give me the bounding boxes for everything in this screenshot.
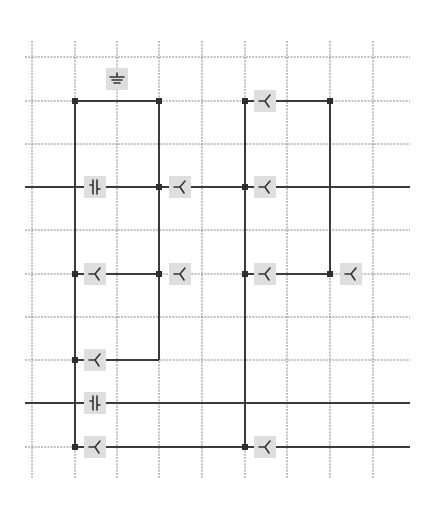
switch-symbol bbox=[169, 263, 191, 285]
capacitor-symbol bbox=[84, 392, 106, 414]
symbol-background bbox=[84, 176, 106, 198]
switch-symbol bbox=[340, 263, 362, 285]
switch-symbol bbox=[254, 176, 276, 198]
junction-node bbox=[156, 271, 162, 277]
junction-node bbox=[242, 271, 248, 277]
switch-symbol bbox=[254, 436, 276, 458]
ground-symbol bbox=[106, 68, 128, 90]
grid-lines bbox=[25, 41, 410, 478]
capacitor-symbol bbox=[84, 176, 106, 198]
component-symbols bbox=[84, 68, 362, 458]
switch-symbol bbox=[84, 263, 106, 285]
junction-node bbox=[156, 184, 162, 190]
symbol-background bbox=[84, 392, 106, 414]
junction-node bbox=[327, 271, 333, 277]
switch-symbol bbox=[169, 176, 191, 198]
switch-symbol bbox=[254, 90, 276, 112]
junction-node bbox=[72, 444, 78, 450]
junction-node bbox=[242, 98, 248, 104]
junction-node bbox=[242, 184, 248, 190]
switch-symbol bbox=[84, 436, 106, 458]
junction-node bbox=[242, 444, 248, 450]
junction-node bbox=[72, 271, 78, 277]
junction-node bbox=[327, 98, 333, 104]
junction-node bbox=[72, 357, 78, 363]
junction-node bbox=[156, 98, 162, 104]
circuit-grid-diagram bbox=[0, 0, 432, 510]
switch-symbol bbox=[84, 349, 106, 371]
symbol-background bbox=[106, 68, 128, 90]
junction-node bbox=[72, 98, 78, 104]
switch-symbol bbox=[254, 263, 276, 285]
